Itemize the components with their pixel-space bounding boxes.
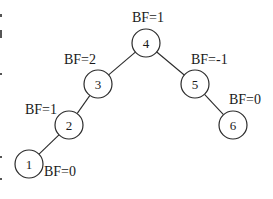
- avl-tree-diagram: 435261 BF=1BF=2BF=-1BF=1BF=0BF=0: [0, 0, 273, 199]
- node-label: 6: [230, 118, 237, 133]
- edge-3-2: [77, 95, 90, 113]
- tree-node-6: 6: [219, 111, 247, 139]
- node-label: 4: [143, 36, 150, 51]
- edge-4-5: [157, 52, 185, 75]
- node-label: 2: [66, 118, 73, 133]
- balance-factor-label-6: BF=0: [229, 92, 261, 107]
- balance-factor-label-4: BF=1: [132, 10, 164, 25]
- balance-factor-label-5: BF=-1: [191, 52, 228, 67]
- balance-factor-label-2: BF=1: [25, 102, 57, 117]
- tree-node-5: 5: [181, 70, 209, 98]
- left-margin-marks: [0, 14, 2, 180]
- tree-node-4: 4: [132, 29, 160, 57]
- balance-factor-label-3: BF=2: [64, 52, 96, 67]
- tree-node-1: 1: [15, 150, 43, 178]
- node-label: 5: [192, 77, 199, 92]
- tree-node-2: 2: [55, 111, 83, 139]
- node-label: 1: [26, 157, 33, 172]
- tree-node-3: 3: [84, 70, 112, 98]
- edge-5-6: [205, 94, 224, 114]
- balance-factor-label-1: BF=0: [44, 164, 76, 179]
- edge-2-1: [39, 135, 59, 154]
- node-label: 3: [95, 77, 102, 92]
- edge-4-3: [109, 52, 136, 75]
